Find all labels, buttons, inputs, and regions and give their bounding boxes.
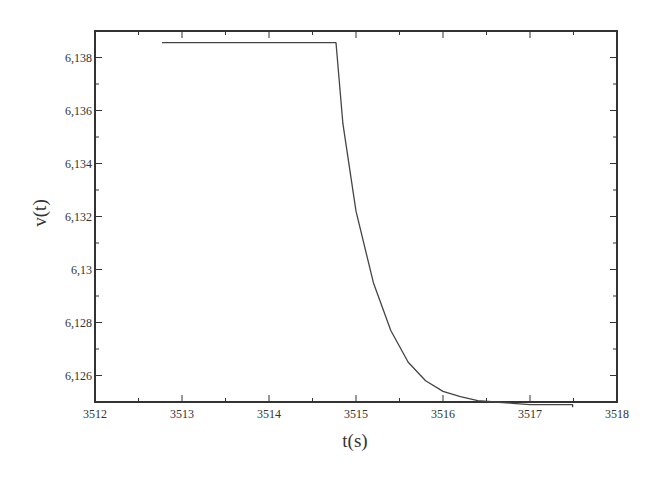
plot-border <box>95 31 617 402</box>
y-tick-label: 6,126 <box>65 369 92 383</box>
y-tick-label: 6,138 <box>65 51 92 65</box>
x-tick-label: 3513 <box>170 407 194 421</box>
y-axis-title: v(t) <box>29 199 51 226</box>
series-line <box>162 43 573 408</box>
x-axis-title: t(s) <box>342 430 367 452</box>
plot-frame <box>95 31 617 402</box>
y-tick-label: 6,136 <box>65 104 92 118</box>
x-tick-label: 3512 <box>83 407 107 421</box>
y-tick-label: 6,134 <box>65 157 92 171</box>
x-tick-label: 3518 <box>605 407 629 421</box>
x-tick-label: 3515 <box>344 407 368 421</box>
y-tick-label: 6,128 <box>65 316 92 330</box>
x-tick-label: 3517 <box>518 407 542 421</box>
line-chart: 3512351335143515351635173518 6,1266,1286… <box>0 0 663 481</box>
y-tick-label: 6,13 <box>71 263 92 277</box>
x-tick-label: 3514 <box>257 407 281 421</box>
data-series <box>162 43 573 408</box>
y-tick-label: 6,132 <box>65 210 92 224</box>
x-axis-ticks: 3512351335143515351635173518 <box>83 31 629 421</box>
x-tick-label: 3516 <box>431 407 455 421</box>
